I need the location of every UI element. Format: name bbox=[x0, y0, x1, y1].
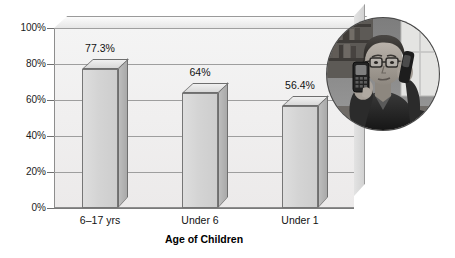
y-tick-label-wrap: 20% bbox=[0, 167, 46, 177]
y-tick-mark bbox=[47, 172, 54, 173]
bar-front-face bbox=[82, 69, 118, 208]
bar-side-face bbox=[318, 95, 328, 208]
y-tick-label-wrap: 80% bbox=[0, 59, 46, 69]
y-tick-mark bbox=[47, 28, 54, 29]
x-category-label: Under 6 bbox=[164, 214, 236, 226]
x-axis-title: Age of Children bbox=[54, 233, 354, 245]
bar-chart: 0%20%40%60%80%100% 77.3%64%56.4% 6–17 yr… bbox=[0, 0, 455, 258]
x-category-label: Under 1 bbox=[264, 214, 336, 226]
y-tick-label-wrap: 100% bbox=[0, 23, 46, 33]
chart-screenshot: 0%20%40%60%80%100% 77.3%64%56.4% 6–17 yr… bbox=[0, 0, 455, 258]
y-tick-mark bbox=[47, 100, 54, 101]
bar-side-face bbox=[218, 82, 228, 208]
y-tick-mark bbox=[47, 208, 54, 209]
x-category-label: 6–17 yrs bbox=[64, 214, 136, 226]
woman-on-phone-photo bbox=[327, 18, 439, 130]
y-tick-label-wrap: 40% bbox=[0, 131, 46, 141]
y-tick-mark bbox=[47, 64, 54, 65]
bar-side-face bbox=[118, 58, 128, 208]
gridline-0% bbox=[54, 208, 354, 209]
bar-front-face bbox=[282, 106, 318, 208]
bar-value-label: 77.3% bbox=[68, 43, 132, 54]
y-tick-label: 100% bbox=[2, 23, 46, 33]
y-tick-label: 80% bbox=[2, 59, 46, 69]
y-tick-label: 20% bbox=[2, 167, 46, 177]
y-tick-label: 60% bbox=[2, 95, 46, 105]
y-tick-label-wrap: 0% bbox=[0, 203, 46, 213]
y-tick-mark bbox=[47, 136, 54, 137]
y-tick-label: 0% bbox=[2, 203, 46, 213]
y-tick-label-wrap: 60% bbox=[0, 95, 46, 105]
plot-wall-top-face bbox=[54, 16, 367, 28]
bar-front-face bbox=[182, 93, 218, 208]
bar bbox=[182, 83, 218, 208]
gridline-100% bbox=[54, 28, 354, 29]
bar bbox=[282, 96, 318, 208]
y-tick-label: 40% bbox=[2, 131, 46, 141]
bar-value-label: 56.4% bbox=[268, 80, 332, 91]
bar-value-label: 64% bbox=[168, 67, 232, 78]
bar bbox=[82, 59, 118, 208]
